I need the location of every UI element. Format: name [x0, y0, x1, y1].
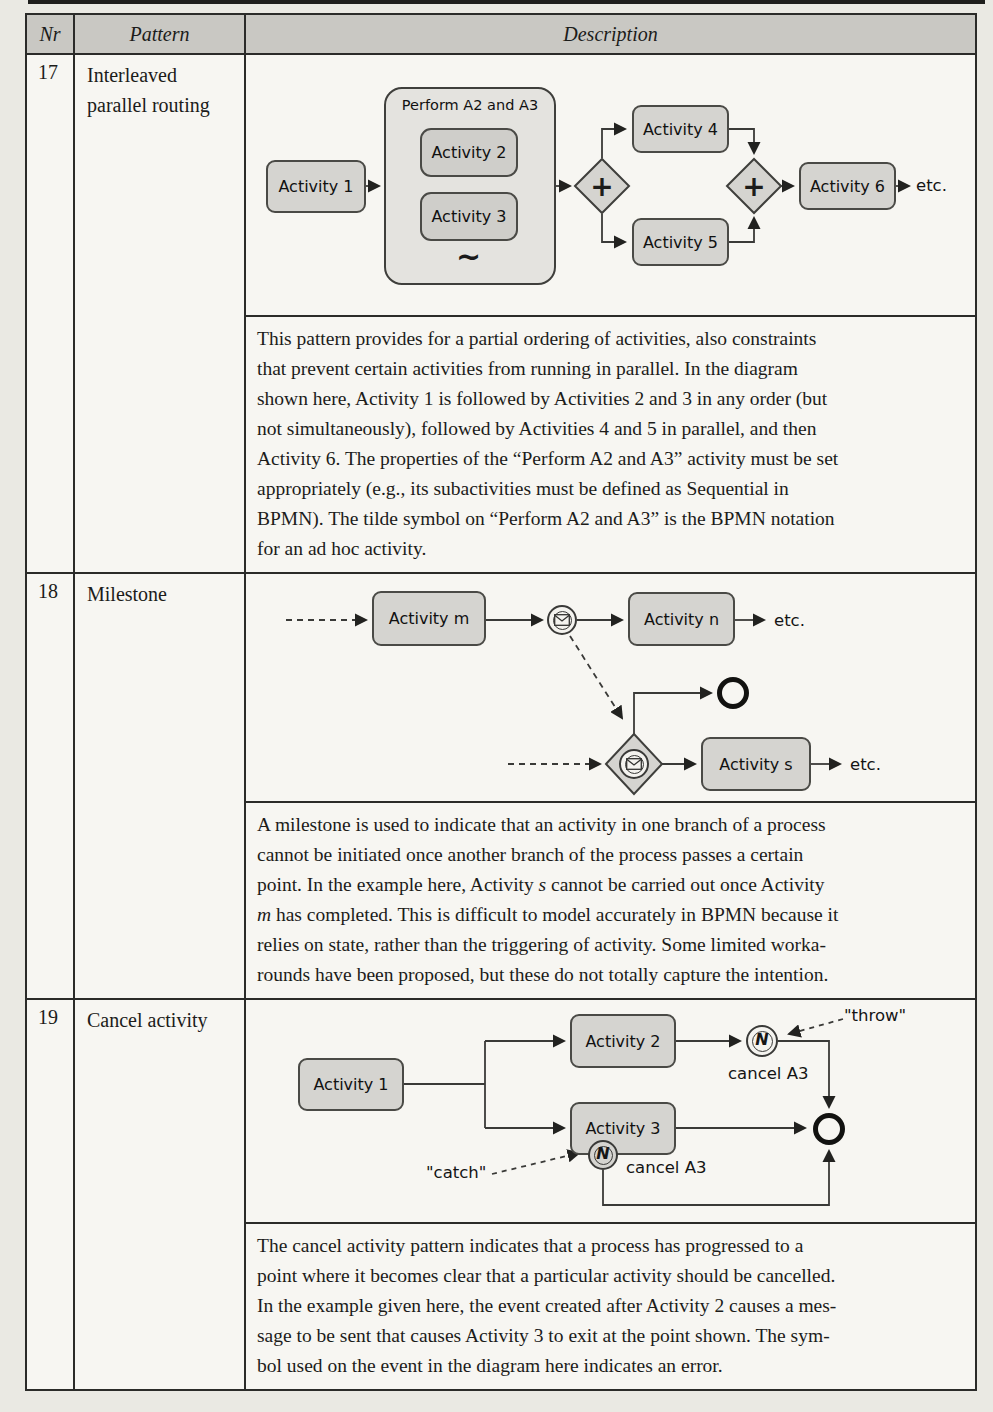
activity-2-label: Activity 2 — [431, 143, 506, 162]
activity-s-box: Activity s — [701, 737, 811, 791]
activity-4-label: Activity 4 — [643, 120, 718, 139]
activity-n-box: Activity n — [628, 592, 735, 646]
message-event-in-gateway — [619, 749, 649, 779]
message-icon — [626, 758, 642, 770]
message-icon — [554, 614, 570, 626]
table-header-row: Nr Pattern Description — [27, 15, 975, 53]
activity-5-label: Activity 5 — [643, 233, 718, 252]
nr-cell: 19 — [27, 1000, 75, 1389]
activity-3-label: Activity 3 — [431, 207, 506, 226]
etc-label: etc. — [916, 176, 947, 195]
activity-1-label: Activity 1 — [278, 177, 353, 196]
description-text-19: The cancel activity pattern indicates th… — [246, 1224, 975, 1389]
catch-annotation: "catch" — [426, 1163, 486, 1182]
description-text-17: This pattern provides for a partial orde… — [246, 317, 975, 572]
etc-label: etc. — [850, 755, 881, 774]
scanned-book-page: { "table": { "headers": { "nr": "Nr", "p… — [0, 0, 993, 1412]
activity-2-label: Activity 2 — [585, 1032, 660, 1051]
table-row-19: 19 Cancel activity Activity 1 Activity 2 — [27, 998, 975, 1389]
activity-3-box: Activity 3 — [420, 192, 518, 241]
header-pattern: Pattern — [75, 15, 246, 53]
cancel-a3-label-bottom: cancel A3 — [626, 1158, 706, 1177]
activity-4-box: Activity 4 — [632, 105, 729, 153]
table-row-17: 17 Interleaved parallel routing — [27, 53, 975, 572]
diagram-interleaved-parallel-routing: Activity 1 Perform A2 and A3 Activity 2 … — [246, 55, 975, 317]
end-event — [717, 677, 749, 709]
activity-2-box: Activity 2 — [420, 128, 518, 177]
activity-1-box: Activity 1 — [298, 1058, 404, 1111]
throw-annotation: "throw" — [844, 1006, 906, 1025]
plus-gateway-icon: + — [582, 166, 622, 206]
activity-6-box: Activity 6 — [799, 162, 896, 210]
activity-3-box: Activity 3 — [570, 1102, 676, 1155]
subprocess-title: Perform A2 and A3 — [386, 97, 554, 113]
header-nr: Nr — [27, 15, 75, 53]
error-icon: N — [596, 1146, 609, 1162]
nr-cell: 18 — [27, 574, 75, 998]
cancel-a3-label-top: cancel A3 — [728, 1064, 808, 1083]
activity-5-box: Activity 5 — [632, 218, 729, 266]
error-catch-boundary-event: N — [588, 1140, 618, 1170]
table-row-18: 18 Milestone Activity m — [27, 572, 975, 998]
error-throw-event: N — [746, 1025, 778, 1057]
end-event — [813, 1113, 845, 1145]
activity-m-box: Activity m — [372, 591, 486, 646]
activity-n-label: Activity n — [644, 610, 719, 629]
error-icon: N — [755, 1032, 768, 1048]
activity-6-label: Activity 6 — [810, 177, 885, 196]
activity-m-label: Activity m — [389, 609, 470, 628]
message-event — [547, 605, 577, 635]
header-description: Description — [246, 15, 975, 53]
plus-gateway-icon: + — [734, 166, 774, 206]
activity-2-box: Activity 2 — [570, 1014, 676, 1068]
pattern-cell: Cancel activity — [75, 1000, 246, 1389]
adhoc-tilde-icon: ~ — [456, 247, 481, 267]
activity-1-box: Activity 1 — [266, 160, 366, 213]
pattern-cell: Interleaved parallel routing — [75, 55, 246, 572]
pattern-cell: Milestone — [75, 574, 246, 998]
diagram-cancel-activity: Activity 1 Activity 2 Activity 3 N N "th… — [246, 1000, 975, 1224]
page-top-rule — [28, 0, 985, 4]
activity-1-label: Activity 1 — [313, 1075, 388, 1094]
diagram-milestone: Activity m Activity n etc. Activity s et… — [246, 574, 975, 803]
workflow-patterns-table: Nr Pattern Description 17 Interleaved pa… — [25, 13, 977, 1391]
activity-3-label: Activity 3 — [585, 1119, 660, 1138]
nr-cell: 17 — [27, 55, 75, 572]
description-text-18: A milestone is used to indicate that an … — [246, 803, 975, 998]
etc-label: etc. — [774, 611, 805, 630]
activity-s-label: Activity s — [719, 755, 792, 774]
